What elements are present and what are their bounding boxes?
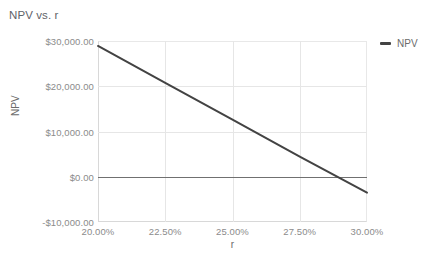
x-tick-label: 20.00% xyxy=(82,226,115,237)
x-tick-label: 30.00% xyxy=(351,226,384,237)
plot-area xyxy=(98,41,367,222)
y-tick-label: -$10,000.00 xyxy=(2,217,94,228)
series-line-npv xyxy=(98,46,367,193)
y-tick-label: $20,000.00 xyxy=(2,81,94,92)
chart-legend: NPV xyxy=(380,38,418,49)
y-axis-tick-labels: -$10,000.00$0.00$10,000.00$20,000.00$30,… xyxy=(0,41,94,222)
y-tick-label: $0.00 xyxy=(2,171,94,182)
x-axis-title: r xyxy=(98,239,367,250)
y-tick-label: $10,000.00 xyxy=(2,126,94,137)
x-axis-tick-labels: 20.00%22.50%25.00%27.50%30.00% xyxy=(98,226,367,240)
legend-swatch-icon xyxy=(380,42,391,45)
x-tick-label: 22.50% xyxy=(149,226,182,237)
series-layer xyxy=(98,41,367,222)
legend-label: NPV xyxy=(397,38,418,49)
y-tick-label: $30,000.00 xyxy=(2,36,94,47)
npv-vs-r-chart: NPV vs. r NPV -$10,000.00$0.00$10,000.00… xyxy=(0,0,437,255)
x-tick-label: 27.50% xyxy=(283,226,316,237)
chart-title: NPV vs. r xyxy=(9,9,58,21)
x-tick-label: 25.00% xyxy=(216,226,249,237)
legend-item-npv[interactable]: NPV xyxy=(380,38,418,49)
